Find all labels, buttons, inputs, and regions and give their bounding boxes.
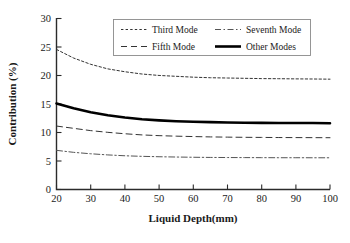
y-tick-label: 0 <box>46 184 51 195</box>
x-axis-ticks <box>57 185 331 190</box>
y-tick-label: 5 <box>46 156 51 167</box>
series-line <box>57 126 331 138</box>
y-axis-title: Contribution (%) <box>6 62 19 145</box>
legend-item-third-mode: Third Mode <box>121 25 198 35</box>
y-tick-label: 30 <box>41 13 52 24</box>
x-tick-label: 70 <box>222 193 233 204</box>
series-line <box>57 150 331 157</box>
x-tick-label: 90 <box>291 193 302 204</box>
legend-label: Seventh Mode <box>246 25 301 35</box>
chart-container: 30 25 20 15 10 5 0 20 30 40 50 60 <box>0 0 350 243</box>
chart-legend: Third Mode Seventh Mode Fifth Mode Other… <box>114 20 311 56</box>
legend-item-fifth-mode: Fifth Mode <box>121 42 195 52</box>
series-line <box>57 103 331 123</box>
series-layer <box>57 49 331 157</box>
x-tick-label: 100 <box>322 193 338 204</box>
x-axis-tick-labels: 20 30 40 50 60 70 80 90 100 <box>51 193 338 204</box>
legend-item-seventh-mode: Seventh Mode <box>215 25 301 35</box>
legend-label: Fifth Mode <box>152 42 195 52</box>
series-line <box>57 49 331 79</box>
y-tick-label: 20 <box>41 70 52 81</box>
legend-label: Third Mode <box>152 25 198 35</box>
x-tick-label: 30 <box>85 193 96 204</box>
y-axis-tick-labels: 30 25 20 15 10 5 0 <box>41 13 52 195</box>
line-chart: 30 25 20 15 10 5 0 20 30 40 50 60 <box>0 0 350 243</box>
x-tick-label: 40 <box>120 193 131 204</box>
y-tick-label: 25 <box>41 42 52 53</box>
legend-item-other-modes: Other Modes <box>215 42 296 52</box>
x-tick-label: 50 <box>154 193 165 204</box>
legend-label: Other Modes <box>246 42 296 52</box>
x-tick-label: 60 <box>188 193 199 204</box>
x-tick-label: 20 <box>51 193 62 204</box>
y-tick-label: 10 <box>41 127 52 138</box>
y-tick-label: 15 <box>41 99 52 110</box>
x-tick-label: 80 <box>256 193 267 204</box>
x-axis-title: Liquid Depth(mm) <box>149 212 238 225</box>
